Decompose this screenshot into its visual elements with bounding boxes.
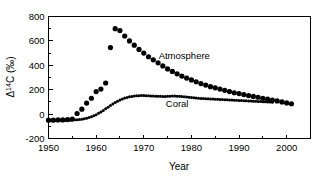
- data-point: [270, 97, 275, 102]
- data-point: [146, 54, 151, 59]
- svg-text:Δ14C (‰): Δ14C (‰): [5, 56, 17, 97]
- x-axis-tick-labels: 195019601970198019902000: [38, 142, 297, 153]
- y-axis-tick-labels: -2000200400600800: [25, 11, 44, 144]
- series-annotations: AtmosphereCoral: [159, 50, 210, 109]
- data-point: [79, 107, 84, 112]
- data-point: [122, 33, 127, 38]
- data-point: [60, 117, 65, 122]
- y-axis-title-superscript: 14: [5, 83, 12, 91]
- data-point: [236, 91, 241, 96]
- annotation-coral: Coral: [166, 98, 189, 109]
- data-point: [46, 118, 51, 123]
- annotation-atmosphere: Atmosphere: [159, 50, 210, 61]
- data-point: [65, 117, 70, 122]
- data-point: [241, 92, 246, 97]
- x-tick-label-1970: 1970: [133, 142, 154, 153]
- data-point: [203, 82, 208, 87]
- data-point: [127, 38, 132, 43]
- data-point: [222, 88, 227, 93]
- y-tick-label-800: 800: [29, 11, 45, 22]
- data-point: [70, 116, 75, 121]
- data-point: [179, 73, 184, 78]
- data-point: [289, 101, 294, 106]
- data-point: [198, 81, 203, 86]
- data-point: [113, 26, 118, 31]
- radiocarbon-scatter-chart: 195019601970198019902000 -20002004006008…: [0, 0, 329, 178]
- x-tick-label-1960: 1960: [86, 142, 107, 153]
- x-axis-ticks: [49, 135, 311, 139]
- data-point: [103, 80, 108, 85]
- data-point: [117, 28, 122, 33]
- data-point: [279, 99, 284, 104]
- chart-figure: 195019601970198019902000 -20002004006008…: [0, 0, 329, 178]
- data-point: [260, 96, 265, 101]
- y-tick-label--200: -200: [25, 133, 44, 144]
- data-point: [175, 71, 180, 76]
- data-point: [189, 77, 194, 82]
- data-point: [184, 76, 189, 81]
- data-point: [155, 60, 160, 65]
- y-tick-label-0: 0: [39, 109, 44, 120]
- x-tick-label-2000: 2000: [276, 142, 297, 153]
- y-tick-label-400: 400: [29, 60, 45, 71]
- x-axis-title: Year: [169, 161, 190, 172]
- data-point: [132, 43, 137, 48]
- data-point: [74, 111, 79, 116]
- x-tick-label-1980: 1980: [181, 142, 202, 153]
- y-axis-title: Δ14C (‰): [5, 56, 17, 97]
- data-point: [136, 47, 141, 52]
- data-point: [213, 85, 218, 90]
- x-tick-label-1990: 1990: [228, 142, 249, 153]
- data-point: [84, 101, 89, 106]
- data-point: [55, 117, 60, 122]
- data-point: [165, 66, 170, 71]
- data-point: [160, 63, 165, 68]
- data-point: [217, 86, 222, 91]
- data-point: [284, 100, 289, 105]
- data-point: [98, 86, 103, 91]
- data-point: [108, 45, 113, 50]
- data-point: [227, 89, 232, 94]
- y-axis-title-rest: C (‰): [5, 56, 16, 83]
- data-point: [51, 118, 56, 123]
- y-tick-label-200: 200: [29, 84, 45, 95]
- y-tick-label-600: 600: [29, 35, 45, 46]
- data-point: [208, 84, 213, 89]
- data-point: [170, 69, 175, 74]
- data-point: [265, 97, 270, 102]
- data-point: [151, 57, 156, 62]
- data-point: [251, 94, 256, 99]
- data-point: [194, 79, 199, 84]
- data-point: [246, 93, 251, 98]
- data-point: [141, 51, 146, 56]
- plot-frame: [49, 17, 311, 139]
- data-point: [232, 90, 237, 95]
- data-point: [89, 96, 94, 101]
- data-point: [256, 95, 261, 100]
- data-point: [94, 89, 99, 94]
- data-point: [275, 98, 280, 103]
